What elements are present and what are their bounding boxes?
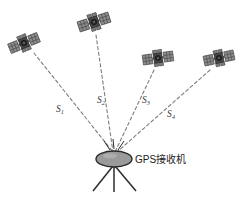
range-line-s2	[96, 35, 113, 152]
range-line-s3	[115, 70, 154, 152]
range-lines-group	[34, 35, 210, 152]
range-label-s4: S4	[167, 109, 176, 120]
antenna-dish-icon	[96, 151, 132, 167]
satellite-3	[142, 48, 175, 68]
range-label-s1: S1	[56, 104, 64, 115]
diagram-canvas: S1 S2 S3 S4 GPS接收机	[0, 0, 241, 200]
range-label-s2: S2	[97, 95, 106, 106]
receiver-group	[93, 139, 136, 192]
gps-positioning-diagram: S1 S2 S3 S4 GPS接收机	[0, 0, 241, 200]
range-line-s4	[117, 70, 210, 152]
satellite-4	[202, 47, 235, 69]
antenna-dish-highlight	[103, 153, 117, 158]
satellite-1	[6, 29, 41, 56]
tripod-icon	[93, 166, 136, 192]
receiver-caption: GPS接收机	[135, 153, 186, 165]
range-label-s3: S3	[142, 95, 151, 106]
satellite-2	[76, 9, 112, 35]
